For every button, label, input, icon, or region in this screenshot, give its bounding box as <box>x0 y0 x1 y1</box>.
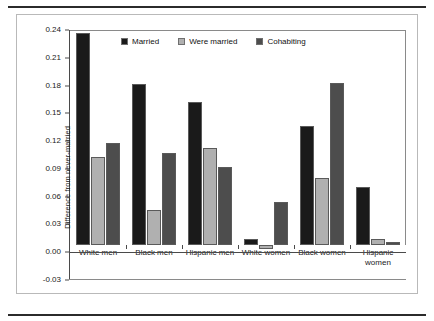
figure-page: MarriedWere marriedCohabiting Difference… <box>0 0 434 321</box>
y-axis-tick-label: 0.21 <box>17 54 61 62</box>
bar-group <box>350 30 406 245</box>
y-axis-tick-mark <box>65 30 69 31</box>
x-axis-category-labels: White menBlack menHispanic menWhite wome… <box>70 248 406 268</box>
bar <box>315 178 329 245</box>
y-axis-tick-mark <box>65 113 69 114</box>
y-axis-tick-label: 0.18 <box>17 82 61 90</box>
chart-legend: MarriedWere marriedCohabiting <box>121 37 306 46</box>
bar <box>330 83 344 245</box>
y-axis-tick-label: 0.15 <box>17 109 61 117</box>
bar <box>274 202 288 245</box>
y-axis-tick-mark <box>65 141 69 142</box>
bar-group <box>70 30 126 245</box>
y-axis-tick-label: 0.09 <box>17 165 61 173</box>
legend-item: Were married <box>178 37 237 46</box>
x-axis-bottom-line <box>69 279 406 280</box>
y-axis-tick-label: 0.12 <box>17 137 61 145</box>
y-axis-tick-label: 0.00 <box>17 248 61 256</box>
y-axis-tick-mark <box>65 196 69 197</box>
legend-swatch-icon <box>256 38 263 45</box>
plot-area: Difference from never-married 0.240.210.… <box>69 30 406 280</box>
bar <box>300 126 314 245</box>
bar <box>244 239 258 245</box>
bar-group <box>238 30 294 245</box>
x-axis-category-label: Black men <box>126 248 182 268</box>
bar <box>132 84 146 245</box>
bar <box>218 167 232 245</box>
bar <box>188 102 202 245</box>
bar <box>106 143 120 245</box>
bar <box>91 157 105 245</box>
top-horizontal-rule <box>8 6 426 8</box>
x-axis-category-label: White men <box>70 248 126 268</box>
y-axis-tick-mark <box>65 85 69 86</box>
y-axis-tick-mark <box>65 224 69 225</box>
bar <box>147 210 161 245</box>
bar <box>162 153 176 245</box>
bar-group <box>126 30 182 245</box>
x-axis-category-label: Hispanic women <box>350 248 406 268</box>
bar <box>203 148 217 245</box>
legend-label: Cohabiting <box>267 37 305 46</box>
bar-group <box>294 30 350 245</box>
y-axis-tick-mark <box>65 168 69 169</box>
figure-border-box: MarriedWere marriedCohabiting Difference… <box>16 14 418 294</box>
legend-item: Married <box>121 37 159 46</box>
bar-group <box>182 30 238 245</box>
y-axis-tick-label: 0.03 <box>17 220 61 228</box>
bar <box>371 239 385 245</box>
x-axis-category-label: White women <box>238 248 294 268</box>
x-axis-category-label: Hispanic men <box>182 248 238 268</box>
bar <box>386 242 400 245</box>
bar <box>76 33 90 245</box>
legend-swatch-icon <box>121 38 128 45</box>
legend-label: Were married <box>189 37 237 46</box>
bottom-horizontal-rule <box>8 314 426 316</box>
x-axis-category-label: Black women <box>294 248 350 268</box>
bar <box>356 187 370 245</box>
y-axis-tick-label: 0.24 <box>17 26 61 34</box>
legend-swatch-icon <box>178 38 185 45</box>
bar-groups <box>70 30 406 245</box>
legend-item: Cohabiting <box>256 37 305 46</box>
legend-label: Married <box>132 37 159 46</box>
y-axis-tick-label: 0.06 <box>17 193 61 201</box>
y-axis-tick-mark <box>65 57 69 58</box>
y-axis-tick-label: -0.03 <box>17 276 61 284</box>
y-axis-tick-mark <box>65 280 69 281</box>
zero-baseline <box>69 252 406 253</box>
